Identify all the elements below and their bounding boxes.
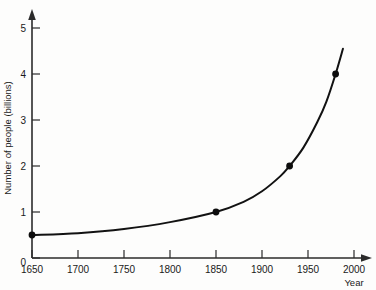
x-axis-title: Year [344,277,363,288]
data-point [29,232,36,239]
population-curve [32,49,343,235]
y-tick-label-2: 2 [20,161,26,172]
chart-figure: 0 1 2 3 4 5 1650 1700 1750 1800 1850 190… [0,0,376,290]
x-tick-label-1750: 1750 [113,264,136,275]
population-growth-chart: 0 1 2 3 4 5 1650 1700 1750 1800 1850 190… [0,0,376,290]
y-tick-label-5: 5 [20,23,26,34]
x-axis-ticks: 1650 1700 1750 1800 1850 1900 1950 2000 [21,250,366,275]
x-tick-label-1800: 1800 [159,264,182,275]
data-point [286,163,293,170]
data-point [213,209,220,216]
data-point-group [29,71,339,239]
x-tick-label-1900: 1900 [251,264,274,275]
x-tick-label-1950: 1950 [297,264,320,275]
y-axis-ticks: 0 1 2 3 4 5 [20,23,40,268]
x-tick-label-2000: 2000 [343,264,366,275]
x-tick-label-1700: 1700 [67,264,90,275]
y-axis-title: Number of people (billions) [2,81,13,195]
y-tick-label-4: 4 [20,69,26,80]
x-axis-arrowhead [361,254,372,262]
y-tick-label-1: 1 [20,207,26,218]
y-tick-label-3: 3 [20,115,26,126]
y-axis-arrowhead [28,9,36,20]
x-tick-label-1850: 1850 [205,264,228,275]
data-point [332,71,339,78]
axes-group [28,9,372,262]
x-tick-label-1650: 1650 [21,264,44,275]
